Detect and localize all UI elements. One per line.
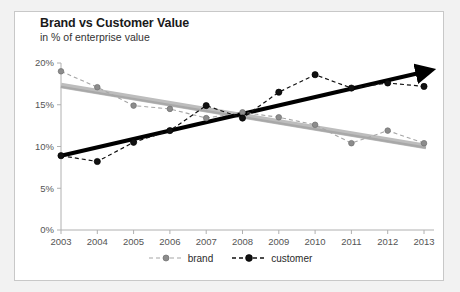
data-point-brand-2009[interactable]	[276, 115, 282, 121]
y-tick-label: 10%	[35, 141, 55, 152]
chart-page: Brand vs Customer Value in % of enterpri…	[0, 0, 460, 292]
legend-item-brand[interactable]: brand	[148, 252, 214, 264]
x-tick-label: 2005	[123, 236, 144, 247]
x-tick-label: 2009	[268, 236, 289, 247]
x-axis: 2003200420052006200720082009201020112012…	[50, 230, 434, 247]
data-point-brand-2005[interactable]	[131, 103, 137, 109]
y-tick-label: 5%	[40, 183, 54, 194]
x-tick-label: 2011	[341, 236, 361, 247]
data-point-customer-2010[interactable]	[312, 72, 318, 78]
data-point-brand-2012[interactable]	[385, 128, 391, 134]
data-point-customer-2013[interactable]	[421, 83, 427, 89]
y-tick-label: 20%	[35, 57, 55, 68]
data-point-customer-2004[interactable]	[94, 158, 100, 164]
x-tick-label: 2008	[232, 236, 253, 247]
plot-area: 0%5%10%15%20% 20032004200520062007200820…	[0, 0, 460, 292]
chart-legend: brand customer	[0, 252, 460, 264]
y-axis: 0%5%10%15%20%	[35, 57, 61, 235]
x-tick-label: 2006	[159, 236, 180, 247]
x-tick-label: 2004	[87, 236, 108, 247]
data-point-customer-2011[interactable]	[348, 85, 354, 91]
x-tick-label: 2010	[305, 236, 326, 247]
chart-svg: 0%5%10%15%20% 20032004200520062007200820…	[0, 0, 460, 292]
legend-key-brand-icon	[148, 252, 184, 264]
data-point-brand-2004[interactable]	[95, 84, 101, 90]
data-point-customer-2005[interactable]	[131, 139, 137, 145]
legend-label-customer: customer	[271, 253, 312, 264]
data-point-brand-2010[interactable]	[312, 122, 318, 128]
data-point-brand-2006[interactable]	[167, 106, 173, 112]
x-tick-label: 2007	[196, 236, 217, 247]
data-point-customer-2012[interactable]	[385, 80, 391, 86]
x-tick-label: 2012	[377, 236, 398, 247]
data-point-customer-2009[interactable]	[276, 89, 282, 95]
data-point-brand-2008[interactable]	[240, 110, 246, 116]
series-line-brand	[61, 71, 424, 143]
x-tick-label: 2003	[50, 236, 71, 247]
legend-label-brand: brand	[188, 253, 214, 264]
y-tick-label: 0%	[40, 224, 54, 235]
y-tick-label: 15%	[35, 99, 55, 110]
data-point-brand-2007[interactable]	[203, 115, 209, 121]
data-point-customer-2007[interactable]	[203, 103, 209, 109]
x-tick-label: 2013	[413, 236, 434, 247]
data-point-customer-2003[interactable]	[58, 153, 64, 159]
data-point-customer-2008[interactable]	[239, 115, 245, 121]
data-point-customer-2006[interactable]	[167, 128, 173, 134]
data-point-brand-2013[interactable]	[421, 140, 427, 146]
legend-item-customer[interactable]: customer	[231, 252, 312, 264]
data-point-brand-2003[interactable]	[58, 69, 64, 75]
legend-key-customer-icon	[231, 252, 267, 264]
data-point-brand-2011[interactable]	[349, 140, 355, 146]
